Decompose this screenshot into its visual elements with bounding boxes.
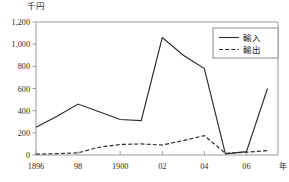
x-tick-label: 04 <box>200 162 208 171</box>
y-tick-label: 1,000 <box>12 40 30 49</box>
x-tick-label: 98 <box>74 162 82 171</box>
legend-label-imports: 輸入 <box>243 33 261 43</box>
y-tick-label: 200 <box>18 129 30 138</box>
x-tick-label: 1896 <box>28 162 44 171</box>
y-tick-label: 0 <box>26 151 30 160</box>
y-tick-label: 800 <box>18 62 30 71</box>
x-axis-unit-label: 年 <box>279 161 287 171</box>
line-chart-plot: 02004006008001,0001,200 1896981900020406… <box>0 0 289 182</box>
x-tick-label: 06 <box>242 162 250 171</box>
x-tick-label: 02 <box>158 162 166 171</box>
y-tick-label: 600 <box>18 85 30 94</box>
x-tick-label: 1900 <box>112 162 128 171</box>
chart-legend: 輸入 輸出 <box>213 28 278 58</box>
y-tick-label: 400 <box>18 107 30 116</box>
chart-container: 千円 02004006008001,0001,200 1896981900020… <box>0 0 289 182</box>
y-tick-label: 1,200 <box>12 18 30 27</box>
series-line-exports <box>36 136 267 155</box>
y-axis: 02004006008001,0001,200 <box>12 18 36 160</box>
legend-label-exports: 輸出 <box>243 45 261 55</box>
